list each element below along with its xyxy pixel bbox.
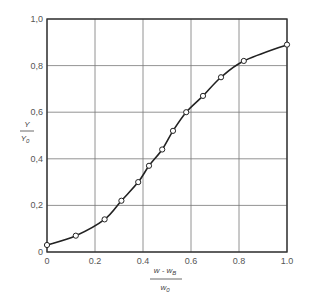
y-tick-label: 0,2 <box>30 200 43 210</box>
plot-frame <box>47 19 287 252</box>
data-markers <box>44 42 289 248</box>
data-point-marker <box>102 217 107 222</box>
y-tick-label: 0,6 <box>30 107 43 117</box>
data-point-marker <box>146 163 151 168</box>
x-axis-label: w - wB w0 <box>150 266 182 293</box>
x-label-denominator: w0 <box>160 283 170 293</box>
line-chart: 00,20,40,60,81,0 00.20.40.60.81.0 Y Y0 w… <box>0 0 312 300</box>
data-point-marker <box>241 58 246 63</box>
data-point-marker <box>119 198 124 203</box>
data-point-marker <box>200 93 205 98</box>
x-tick-label: 1.0 <box>281 256 294 266</box>
y-tick-label: 0,4 <box>30 154 43 164</box>
data-point-marker <box>160 147 165 152</box>
data-point-marker <box>136 180 141 185</box>
y-axis-label: Y Y0 <box>20 120 34 144</box>
x-axis-ticks: 00.20.40.60.81.0 <box>44 256 293 266</box>
data-point-marker <box>170 128 175 133</box>
y-label-denominator: Y0 <box>21 134 30 144</box>
x-tick-label: 0.6 <box>185 256 198 266</box>
data-point-marker <box>218 75 223 80</box>
y-label-numerator: Y <box>24 120 30 129</box>
y-tick-label: 0 <box>38 247 43 257</box>
x-tick-label: 0.2 <box>89 256 102 266</box>
grid-lines <box>47 19 287 252</box>
y-tick-label: 1,0 <box>30 14 43 24</box>
x-tick-label: 0.4 <box>137 256 150 266</box>
data-point-marker <box>73 233 78 238</box>
data-point-marker <box>284 42 289 47</box>
data-curve <box>47 45 287 245</box>
y-axis-ticks: 00,20,40,60,81,0 <box>30 14 43 257</box>
x-label-numerator: w - wB <box>154 266 177 276</box>
x-tick-label: 0.8 <box>233 256 246 266</box>
y-tick-label: 0,8 <box>30 61 43 71</box>
data-point-marker <box>184 110 189 115</box>
x-tick-label: 0 <box>44 256 49 266</box>
data-point-marker <box>44 242 49 247</box>
